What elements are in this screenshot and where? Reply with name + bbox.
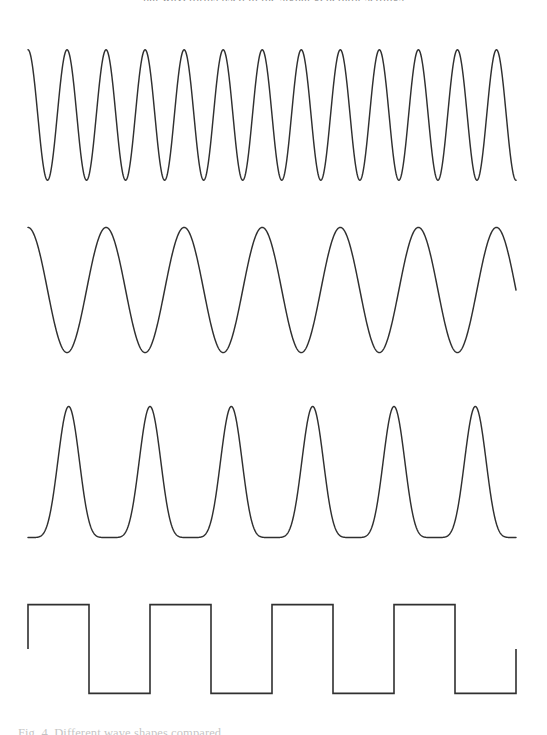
mid-frequency-sine-trace [28,227,516,352]
narrow-peak-pulse-plot [0,386,547,556]
figure-page: nal waveforms used in the signal generat… [0,0,547,735]
narrow-peak-pulse-trace [28,406,516,537]
waveform-panel-mid-frequency-sine [0,208,547,373]
square-wave-plot [0,586,547,711]
waveform-panel-square-wave [0,586,547,711]
mid-frequency-sine-plot [0,208,547,373]
waveform-panel-narrow-peak-pulse [0,386,547,556]
high-frequency-sine-plot [0,30,547,200]
waveform-panel-high-frequency-sine [0,30,547,200]
high-frequency-sine-trace [28,50,516,180]
bottom-cropped-caption: Fig. 4. Different wave shapes compared. [0,726,547,735]
square-wave-trace [28,605,516,694]
top-cropped-caption: nal waveforms used in the signal generat… [0,0,547,1]
